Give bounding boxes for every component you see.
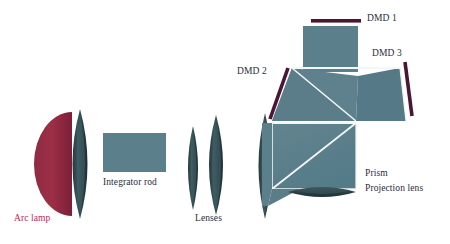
relay-lens-2 [209, 115, 223, 215]
label-lenses: Lenses [195, 213, 222, 223]
integrator-rod [103, 133, 166, 172]
arc-lamp-reflector [34, 112, 72, 216]
label-dmd-1: DMD 1 [367, 13, 397, 23]
label-dmd-3: DMD 3 [372, 48, 402, 58]
condenser-lens-1 [73, 109, 88, 219]
label-dmd-2: DMD 2 [237, 66, 267, 76]
dmd-3-panel [405, 62, 412, 116]
dmd-1-panel [311, 19, 361, 23]
relay-lens-1 [188, 126, 198, 210]
label-prism: Prism [365, 168, 388, 178]
label-projection-lens: Projection lens [365, 183, 423, 193]
optical-path-illustration [0, 0, 450, 244]
label-arc-lamp: Arc lamp [14, 213, 50, 223]
optical-diagram: Arc lamp Integrator rod Lenses DMD 1 DMD… [0, 0, 450, 244]
prism-top-block [303, 26, 358, 72]
label-integrator-rod: Integrator rod [103, 177, 157, 187]
